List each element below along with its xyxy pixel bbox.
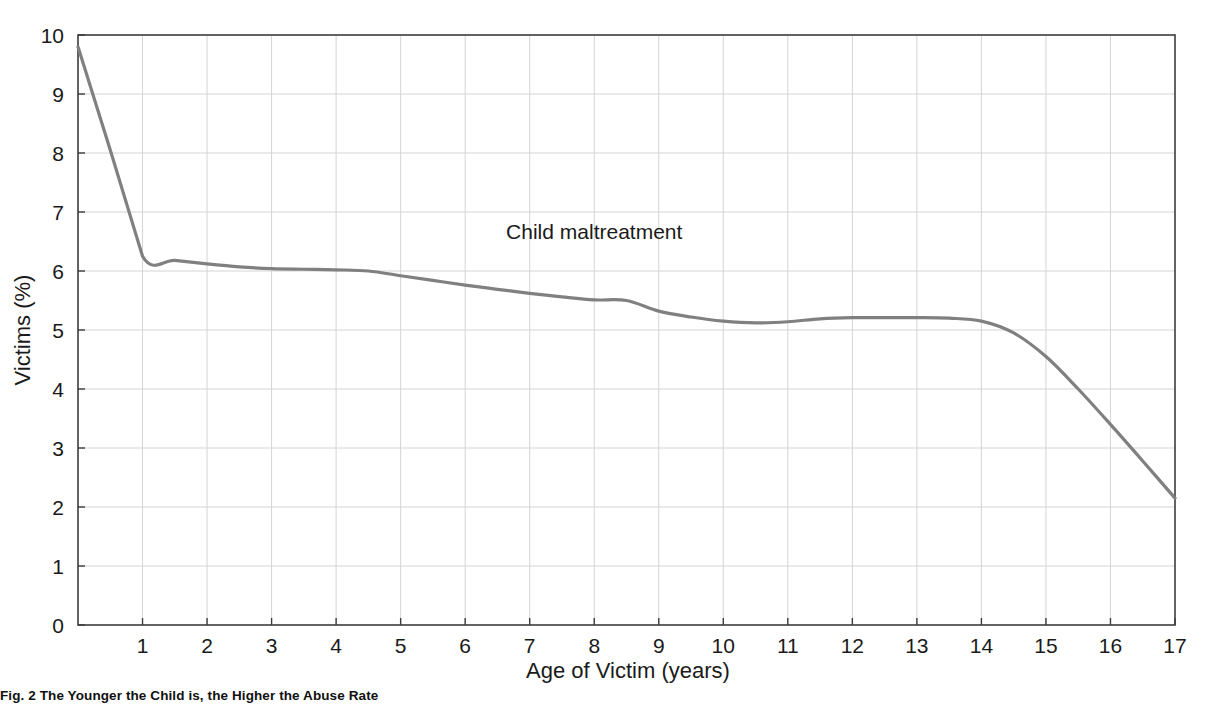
x-tick-label: 3	[266, 634, 278, 657]
y-tick-label: 0	[52, 614, 64, 637]
x-tick-label: 10	[712, 634, 735, 657]
chart-background	[0, 0, 1212, 706]
series-annotation-child-maltreatment: Child maltreatment	[506, 220, 682, 243]
figure-caption: Fig. 2 The Younger the Child is, the Hig…	[0, 688, 1212, 703]
y-tick-label: 4	[52, 378, 64, 401]
y-tick-label: 5	[52, 319, 64, 342]
figure-container: 012345678910 1234567891011121314151617 V…	[0, 0, 1212, 706]
x-tick-label: 6	[459, 634, 471, 657]
x-tick-label: 17	[1163, 634, 1186, 657]
y-axis-title: Victims (%)	[10, 275, 35, 386]
y-tick-label: 10	[41, 24, 64, 47]
x-tick-label: 8	[588, 634, 600, 657]
x-tick-label: 7	[524, 634, 536, 657]
x-axis-title: Age of Victim (years)	[526, 658, 730, 683]
y-tick-label: 3	[52, 437, 64, 460]
y-tick-label: 8	[52, 142, 64, 165]
x-tick-label: 5	[395, 634, 407, 657]
x-tick-label: 2	[201, 634, 213, 657]
x-tick-label: 12	[841, 634, 864, 657]
x-tick-label: 13	[905, 634, 928, 657]
x-tick-label: 14	[970, 634, 994, 657]
x-tick-label: 15	[1034, 634, 1057, 657]
y-tick-label: 6	[52, 260, 64, 283]
y-tick-label: 9	[52, 83, 64, 106]
x-tick-label: 11	[777, 634, 799, 657]
y-tick-label: 1	[52, 555, 64, 578]
x-tick-label: 1	[137, 634, 149, 657]
x-tick-label: 16	[1099, 634, 1122, 657]
x-tick-label: 4	[330, 634, 342, 657]
y-tick-label: 2	[52, 496, 64, 519]
line-chart: 012345678910 1234567891011121314151617 V…	[0, 0, 1212, 706]
y-tick-label: 7	[52, 201, 64, 224]
x-tick-label: 9	[653, 634, 665, 657]
